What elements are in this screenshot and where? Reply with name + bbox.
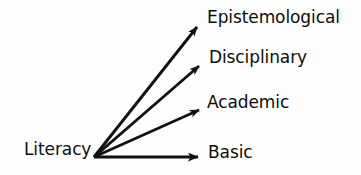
literacy-types-diagram: Literacy Epistemological Disciplinary Ac… — [0, 0, 361, 175]
arrow-to-epistemological — [94, 27, 197, 157]
source-node-label: Literacy — [24, 140, 91, 159]
target-node-label-epistemological: Epistemological — [207, 8, 340, 27]
target-node-label-disciplinary: Disciplinary — [209, 48, 307, 67]
arrow-to-disciplinary — [94, 66, 199, 157]
arrow-to-academic — [94, 110, 199, 157]
target-node-label-basic: Basic — [208, 143, 253, 162]
target-node-label-academic: Academic — [207, 93, 289, 112]
